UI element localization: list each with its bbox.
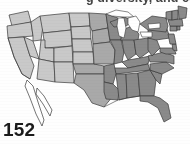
map-figure: .st { stroke: #3a3a3a; stroke-width: 0.7… — [0, 4, 190, 132]
lake-ontario — [148, 23, 160, 29]
state-wyoming — [43, 30, 72, 48]
state-arkansas — [104, 64, 116, 84]
state-oklahoma — [73, 64, 104, 74]
state-delaware — [172, 44, 177, 51]
state-nebraska — [72, 39, 93, 52]
state-arizona — [37, 59, 55, 82]
state-maine — [178, 6, 187, 19]
scanned-page-fragment: g diversity, and co .st { stroke: #3a3a3… — [0, 0, 190, 144]
state-missouri — [93, 42, 115, 64]
state-kansas — [73, 52, 94, 64]
state-louisiana — [104, 82, 119, 100]
state-indiana — [122, 40, 136, 60]
state-connecticut — [170, 26, 177, 31]
state-vermont — [166, 11, 172, 20]
state-rhode-island — [177, 26, 180, 30]
state-new-jersey — [168, 34, 176, 44]
state-new-mexico — [54, 62, 74, 83]
state-alabama — [126, 73, 140, 98]
us-choropleth-svg: .st { stroke: #3a3a3a; stroke-width: 0.7… — [0, 4, 190, 132]
region-east-high — [104, 6, 187, 122]
page-number: 152 — [3, 120, 35, 140]
state-florida — [140, 96, 171, 122]
lake-erie — [140, 32, 152, 37]
state-north-dakota — [69, 13, 90, 27]
state-montana — [40, 13, 71, 33]
state-south-dakota — [71, 26, 91, 39]
state-oregon — [7, 22, 33, 38]
state-iowa — [92, 28, 110, 44]
state-colorado — [54, 46, 73, 62]
state-new-hampshire — [172, 10, 178, 20]
